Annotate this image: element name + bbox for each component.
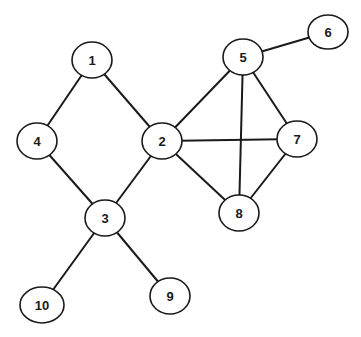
node-label: 4 — [33, 134, 41, 149]
graph-canvas: 12345678910 — [0, 0, 361, 337]
node-label: 7 — [293, 132, 300, 147]
node-4: 4 — [17, 123, 57, 159]
node-9: 9 — [150, 278, 190, 314]
node-7: 7 — [277, 121, 317, 157]
node-1: 1 — [72, 42, 112, 78]
node-6: 6 — [308, 15, 348, 49]
node-label: 3 — [101, 211, 108, 226]
node-label: 8 — [235, 206, 242, 221]
node-2: 2 — [142, 123, 182, 159]
node-label: 6 — [324, 25, 331, 40]
node-10: 10 — [20, 287, 64, 323]
node-label: 10 — [35, 298, 49, 313]
node-3: 3 — [85, 200, 125, 236]
nodes-layer: 12345678910 — [17, 15, 348, 323]
edge-5-8 — [239, 57, 243, 213]
graph-diagram: 12345678910 — [0, 0, 361, 337]
node-label: 1 — [88, 53, 95, 68]
node-5: 5 — [223, 39, 263, 75]
node-label: 5 — [239, 50, 246, 65]
node-label: 2 — [158, 134, 165, 149]
node-8: 8 — [219, 195, 259, 231]
node-label: 9 — [166, 289, 173, 304]
